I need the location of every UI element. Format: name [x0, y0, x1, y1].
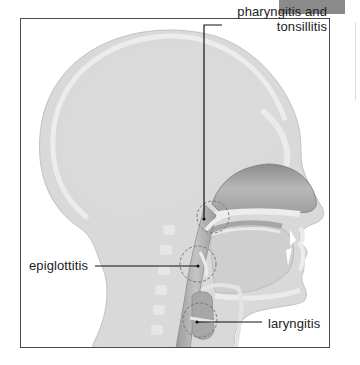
larynx	[192, 292, 214, 340]
laryngitis-label: laryngitis	[268, 316, 320, 331]
pharyngitis-tonsillitis-label: pharyngitis and tonsillitis	[207, 4, 327, 34]
pharyngitis-label-line1: pharyngitis and	[207, 4, 327, 19]
pharyngitis-label-line2: tonsillitis	[207, 19, 327, 34]
epiglottitis-label: epiglottitis	[29, 258, 88, 273]
head-section-illustration	[0, 0, 360, 365]
